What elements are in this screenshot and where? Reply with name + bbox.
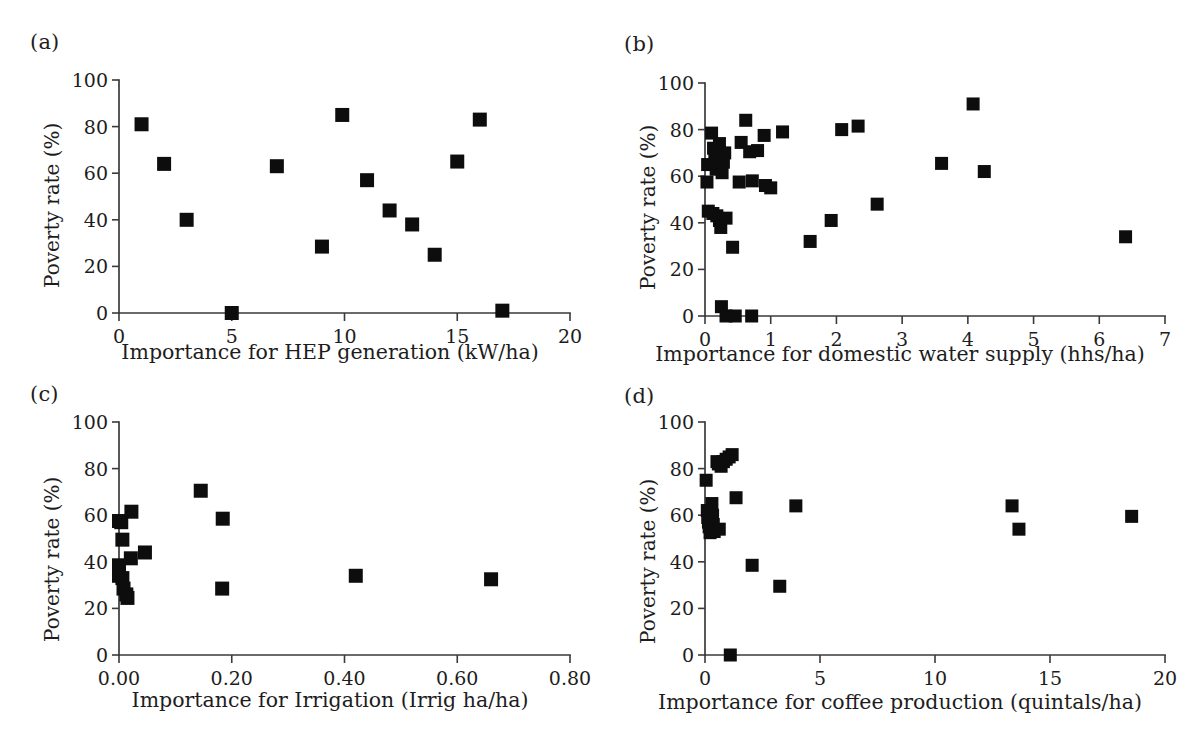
- data-point-marker: [726, 448, 739, 461]
- data-point-marker: [215, 582, 229, 596]
- data-point-marker: [764, 181, 777, 194]
- data-point-marker: [120, 591, 134, 605]
- data-point-marker: [428, 248, 442, 262]
- data-point-marker: [484, 572, 498, 586]
- data-point-marker: [739, 114, 752, 127]
- data-point-marker: [1125, 510, 1138, 523]
- data-point-marker: [733, 176, 746, 189]
- y-tick-label: 60: [670, 504, 694, 526]
- data-point-marker: [935, 157, 948, 170]
- data-point-marker: [751, 144, 764, 157]
- y-tick-label: 20: [670, 597, 694, 619]
- data-point-marker: [315, 240, 329, 254]
- data-point-marker: [124, 551, 138, 565]
- y-tick-label: 100: [658, 72, 694, 94]
- data-point-marker: [726, 241, 739, 254]
- data-point-marker: [705, 497, 718, 510]
- data-point-marker: [852, 120, 865, 133]
- x-tick-label: 10: [923, 667, 947, 689]
- panel-b-x-axis-label: Importance for domestic water supply (hh…: [610, 342, 1190, 366]
- x-tick-label: 0.80: [549, 667, 591, 689]
- data-point-marker: [216, 512, 230, 526]
- data-point-marker: [180, 213, 194, 227]
- data-point-marker: [1012, 523, 1025, 536]
- data-point-marker: [473, 113, 487, 127]
- y-tick-label: 20: [670, 258, 694, 280]
- panel-a: (a) Poverty rate (%) 0204060801000510152…: [0, 0, 600, 370]
- data-point-marker: [138, 545, 152, 559]
- y-tick-label: 40: [84, 551, 108, 573]
- panel-d-x-axis-label: Importance for coffee production (quinta…: [610, 690, 1190, 714]
- data-point-marker: [871, 198, 884, 211]
- data-point-marker: [700, 176, 713, 189]
- y-tick-label: 100: [658, 411, 694, 433]
- panel-d-plot-area: 02040608010005101520: [600, 370, 1199, 741]
- data-point-marker: [967, 97, 980, 110]
- figure-four-scatter-panels: (a) Poverty rate (%) 0204060801000510152…: [0, 0, 1199, 741]
- panel-a-x-axis-label: Importance for HEP generation (kW/ha): [60, 340, 600, 364]
- data-point-marker: [124, 505, 138, 519]
- y-tick-label: 60: [84, 162, 108, 184]
- y-tick-label: 60: [670, 165, 694, 187]
- data-point-marker: [835, 123, 848, 136]
- y-tick-label: 0: [682, 644, 694, 666]
- data-point-marker: [700, 474, 713, 487]
- panel-b: (b) Poverty rate (%) 0204060801000123456…: [600, 0, 1199, 370]
- x-tick-label: 0.40: [323, 667, 365, 689]
- data-point-marker: [360, 173, 374, 187]
- panel-b-plot-area: 02040608010001234567: [600, 0, 1199, 370]
- data-point-marker: [746, 174, 759, 187]
- y-tick-label: 40: [84, 209, 108, 231]
- x-tick-label: 0.60: [436, 667, 478, 689]
- y-tick-label: 100: [72, 411, 108, 433]
- y-tick-label: 20: [84, 255, 108, 277]
- data-point-marker: [1006, 499, 1019, 512]
- x-tick-label: 0.00: [98, 667, 140, 689]
- data-point-marker: [773, 580, 786, 593]
- y-tick-label: 60: [84, 504, 108, 526]
- x-tick-label: 20: [1153, 667, 1177, 689]
- y-tick-label: 0: [682, 305, 694, 327]
- y-tick-label: 80: [670, 119, 694, 141]
- panel-c: (c) Poverty rate (%) 0204060801000.000.2…: [0, 370, 600, 741]
- data-point-marker: [724, 649, 737, 662]
- panel-c-x-axis-label: Importance for Irrigation (Irrig ha/ha): [60, 688, 600, 712]
- data-point-marker: [1119, 230, 1132, 243]
- data-point-marker: [335, 108, 349, 122]
- data-point-marker: [495, 304, 509, 318]
- y-tick-label: 20: [84, 597, 108, 619]
- data-point-marker: [349, 569, 363, 583]
- x-tick-label: 0.20: [211, 667, 253, 689]
- data-point-marker: [450, 155, 464, 169]
- data-point-marker: [804, 235, 817, 248]
- y-tick-label: 0: [96, 302, 108, 324]
- data-point-marker: [978, 165, 991, 178]
- x-tick-label: 0: [699, 667, 711, 689]
- data-point-marker: [717, 156, 730, 169]
- x-tick-label: 15: [1038, 667, 1062, 689]
- y-tick-label: 80: [84, 458, 108, 480]
- data-point-marker: [745, 310, 758, 323]
- y-tick-label: 80: [84, 116, 108, 138]
- data-point-marker: [758, 129, 771, 142]
- data-point-marker: [776, 125, 789, 138]
- x-tick-label: 5: [814, 667, 826, 689]
- data-point-marker: [405, 217, 419, 231]
- y-tick-label: 40: [670, 551, 694, 573]
- y-tick-label: 80: [670, 458, 694, 480]
- data-point-marker: [225, 306, 239, 320]
- data-point-marker: [825, 214, 838, 227]
- data-point-marker: [194, 484, 208, 498]
- y-tick-label: 0: [96, 644, 108, 666]
- data-point-marker: [789, 499, 802, 512]
- data-point-marker: [746, 559, 759, 572]
- panel-d: (d) Poverty rate (%) 0204060801000510152…: [600, 370, 1199, 741]
- data-point-marker: [157, 157, 171, 171]
- data-point-marker: [713, 523, 726, 536]
- data-point-marker: [270, 159, 284, 173]
- panel-c-plot-area: 0204060801000.000.200.400.600.80: [0, 370, 600, 741]
- y-tick-label: 40: [670, 212, 694, 234]
- panel-a-plot-area: 02040608010005101520: [0, 0, 600, 370]
- data-point-marker: [720, 212, 733, 225]
- y-tick-label: 100: [72, 69, 108, 91]
